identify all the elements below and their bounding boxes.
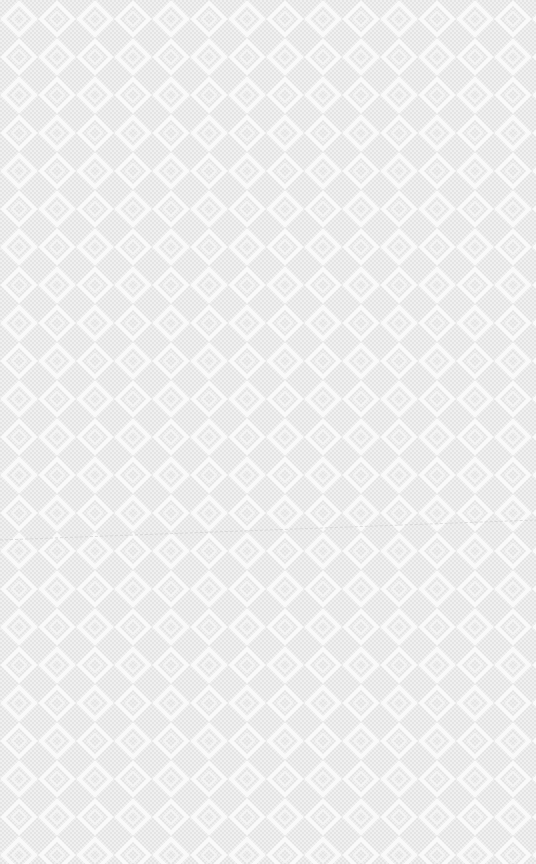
paper-crease-line [0, 0, 536, 864]
